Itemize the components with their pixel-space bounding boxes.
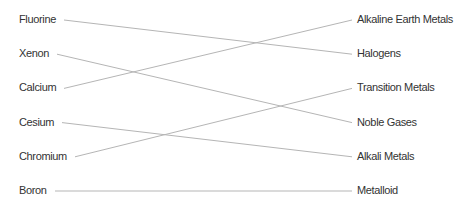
right-item-metalloid[interactable]: Metalloid: [357, 184, 398, 197]
connection-line-chromium-transition-metals: [75, 88, 352, 156]
left-item-chromium[interactable]: Chromium: [19, 150, 67, 163]
connection-line-cesium-alkali-metals: [62, 123, 352, 157]
left-item-cesium[interactable]: Cesium: [19, 116, 54, 129]
right-item-noble-gases[interactable]: Noble Gases: [357, 116, 417, 129]
right-item-alkali-metals[interactable]: Alkali Metals: [357, 150, 414, 163]
connection-lines: [0, 0, 473, 208]
left-item-boron[interactable]: Boron: [19, 184, 47, 197]
right-item-alkaline-earth-metals[interactable]: Alkaline Earth Metals: [357, 13, 453, 26]
connection-line-xenon-noble-gases: [57, 54, 352, 122]
connection-line-calcium-alkaline-earth-metals: [64, 20, 352, 88]
right-item-transition-metals[interactable]: Transition Metals: [357, 81, 434, 94]
connection-line-fluorine-halogens: [64, 20, 352, 54]
right-item-halogens[interactable]: Halogens: [357, 47, 401, 60]
left-item-fluorine[interactable]: Fluorine: [19, 13, 56, 26]
left-item-xenon[interactable]: Xenon: [19, 47, 49, 60]
matching-diagram: FluorineXenonCalciumCesiumChromiumBoron …: [0, 0, 473, 208]
left-item-calcium[interactable]: Calcium: [19, 81, 56, 94]
